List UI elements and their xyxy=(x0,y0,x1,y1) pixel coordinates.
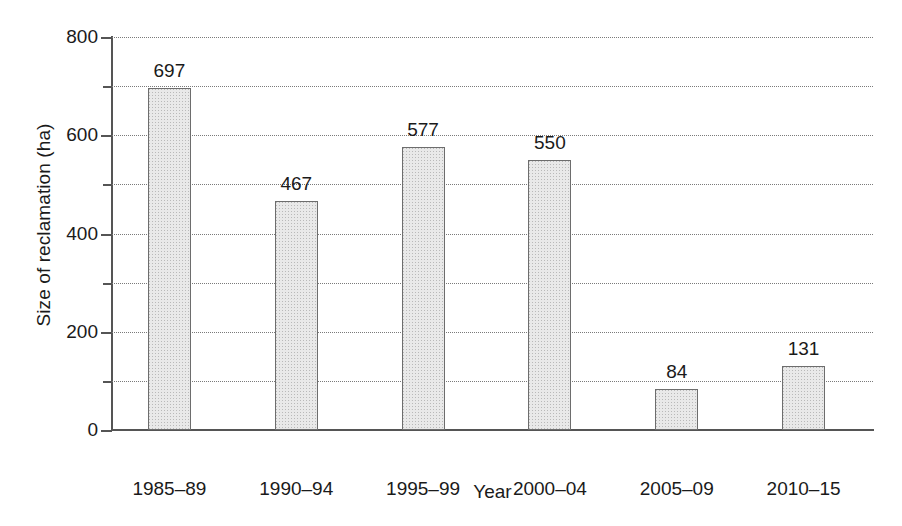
y-axis-tick-label: 600 xyxy=(66,124,98,146)
bar-value-label: 550 xyxy=(534,132,566,154)
gridline xyxy=(112,283,873,284)
gridline xyxy=(112,381,873,382)
bar xyxy=(402,147,445,430)
bar xyxy=(655,389,698,430)
bar xyxy=(148,88,191,430)
gridline xyxy=(112,332,873,333)
bar-value-label: 577 xyxy=(407,119,439,141)
y-axis-tick-label: 200 xyxy=(66,321,98,343)
bar-value-label: 84 xyxy=(666,361,687,383)
y-axis-major-tick xyxy=(101,332,112,334)
bar-chart-figure: Size of reclamation (ha) 020040060080069… xyxy=(0,0,902,526)
y-axis-major-tick xyxy=(101,430,112,432)
bar-value-label: 131 xyxy=(788,338,820,360)
plot-area: 02004006008006971985–894671990–945771995… xyxy=(112,37,873,430)
y-axis-minor-tick xyxy=(103,381,112,383)
bar-value-label: 697 xyxy=(154,60,186,82)
y-axis-tick-label: 400 xyxy=(66,223,98,245)
gridline xyxy=(112,135,873,136)
gridline xyxy=(112,86,873,87)
y-axis-tick-label: 800 xyxy=(66,26,98,48)
y-axis-major-tick xyxy=(101,234,112,236)
gridline xyxy=(112,234,873,235)
y-axis-major-tick xyxy=(101,37,112,39)
y-axis-major-tick xyxy=(101,135,112,137)
bar xyxy=(275,201,318,430)
x-axis-title: Year xyxy=(112,481,873,503)
y-axis-minor-tick xyxy=(103,184,112,186)
gridline xyxy=(112,37,873,38)
bar xyxy=(528,160,571,430)
bar xyxy=(782,366,825,430)
y-axis-minor-tick xyxy=(103,86,112,88)
y-axis-title: Size of reclamation (ha) xyxy=(33,75,55,375)
y-axis-minor-tick xyxy=(103,283,112,285)
gridline xyxy=(112,184,873,185)
bar-value-label: 467 xyxy=(280,173,312,195)
y-axis-tick-label: 0 xyxy=(87,419,98,441)
